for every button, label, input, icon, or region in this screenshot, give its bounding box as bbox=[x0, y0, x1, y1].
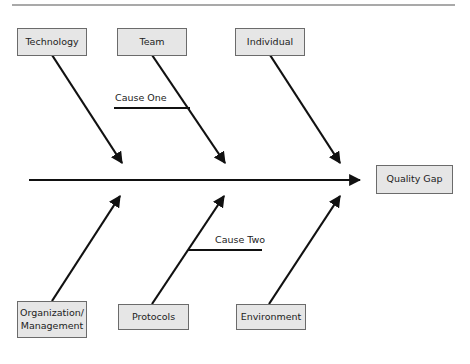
bone-environment bbox=[269, 196, 340, 304]
bone-individual bbox=[270, 55, 340, 163]
bone-technology bbox=[52, 55, 122, 163]
sub-cause-label-two: Cause Two bbox=[215, 234, 265, 245]
category-box-protocols: Protocols bbox=[118, 304, 189, 330]
category-box-technology: Technology bbox=[17, 28, 87, 56]
category-box-team: Team bbox=[117, 28, 187, 56]
category-box-individual: Individual bbox=[235, 28, 305, 56]
bone-organization-management bbox=[52, 196, 120, 301]
effect-box-quality-gap: Quality Gap bbox=[376, 165, 453, 194]
sub-cause-label-one: Cause One bbox=[115, 92, 167, 103]
category-box-environment: Environment bbox=[236, 304, 306, 330]
category-box-organization-management: Organization/ Management bbox=[17, 301, 87, 338]
